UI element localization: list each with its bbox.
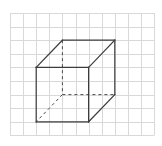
cube-grid-diagram <box>0 0 162 146</box>
cube-edge <box>89 40 115 67</box>
grid-paper <box>10 13 155 136</box>
